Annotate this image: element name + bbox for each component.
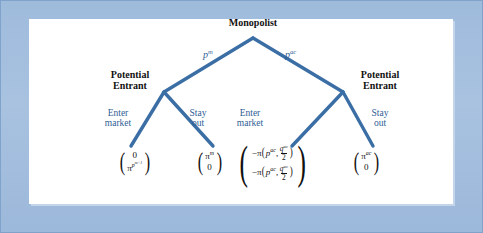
action-stay-right-line2: out (360, 118, 400, 128)
action-enter-left-line1: Enter (92, 108, 144, 118)
right-entrant-node-label: Potential Entrant (348, 70, 412, 92)
payoff-3-top-num-sup: ac (283, 144, 288, 149)
payoff-4-body: πac 0 (361, 150, 372, 174)
payoff-1-bottom: πpm+1 (127, 161, 142, 174)
payoff-3-open-paren: ( (239, 145, 247, 182)
payoff-3-top-arg-open: ( (262, 145, 265, 158)
action-stay-left-line1: Stay (178, 108, 218, 118)
payoff-1-open-paren: ( (120, 152, 125, 172)
action-stay-left-line2: out (178, 118, 218, 128)
payoff-3-bottom-fraction: qac2 (279, 165, 289, 181)
payoff-3-bottom-arg-close: ) (290, 164, 293, 177)
payoff-2-sup: m (210, 150, 214, 156)
payoff-1-sup-sup: m+1 (135, 161, 142, 165)
action-enter-right-line2: market (224, 118, 276, 128)
payoff-3-bottom-num-sup: ac (283, 164, 288, 169)
branch-right-sup: ac (290, 48, 296, 55)
branch-label-left: pm (203, 48, 213, 61)
payoff-vector-enter-right: ( −π(pac,qac2) −π(pac,qac2) ) (236, 144, 310, 183)
payoff-1-sup: pm+1 (132, 162, 142, 168)
payoff-4-top: πac (361, 150, 371, 162)
payoff-3-bottom-num: qac (279, 165, 289, 173)
action-stay-out-right: Stay out (360, 108, 400, 129)
payoff-3-top-fraction: qac2 (279, 145, 289, 161)
payoff-vector-enter-left: ( 0 πpm+1 ) (118, 150, 151, 174)
left-entrant-node-label: Potential Entrant (98, 70, 162, 92)
payoff-2-bottom: 0 (207, 162, 212, 173)
branch-label-right: pac (285, 48, 296, 61)
payoff-3-top: −π(pac,qac2) (252, 144, 294, 163)
payoff-3-bottom-arg-open: ( (262, 164, 265, 177)
payoff-3-top-arg-close: ) (290, 145, 293, 158)
payoff-1-close-paren: ) (144, 152, 149, 172)
payoff-3-bottom-den: 2 (281, 173, 287, 181)
payoff-1-body: 0 πpm+1 (127, 150, 143, 174)
payoff-vector-stay-left: ( πm 0 ) (196, 150, 223, 174)
payoff-3-bottom: −π(pac,qac2) (252, 163, 294, 182)
root-node-label: Monopolist (213, 18, 293, 29)
payoff-2-vector: ( πm 0 ) (196, 150, 223, 174)
payoff-1-top: 0 (132, 150, 137, 161)
payoff-2-close-paren: ) (216, 152, 221, 172)
payoff-3-body: −π(pac,qac2) −π(pac,qac2) (251, 144, 294, 183)
payoff-2-top: πm (205, 150, 214, 162)
action-enter-right-line1: Enter (224, 108, 276, 118)
payoff-vector-stay-right: ( πac 0 ) (352, 150, 381, 174)
action-enter-left-line2: market (92, 118, 144, 128)
payoff-3-top-num: qac (279, 145, 289, 153)
branch-left-sup: m (208, 48, 213, 55)
left-entrant-line2: Entrant (98, 81, 162, 92)
payoff-4-sup: ac (366, 150, 372, 156)
payoff-3-vector: ( −π(pac,qac2) −π(pac,qac2) ) (236, 144, 310, 183)
payoff-3-close-paren: ) (298, 145, 306, 182)
payoff-2-body: πm 0 (205, 150, 215, 174)
payoff-1-vector: ( 0 πpm+1 ) (118, 150, 151, 174)
payoff-4-open-paren: ( (354, 152, 359, 172)
payoff-4-close-paren: ) (373, 152, 378, 172)
payoff-4-vector: ( πac 0 ) (352, 150, 381, 174)
right-entrant-line2: Entrant (348, 81, 412, 92)
action-stay-out-left: Stay out (178, 108, 218, 129)
action-enter-market-left: Enter market (92, 108, 144, 129)
action-enter-market-right: Enter market (224, 108, 276, 129)
action-stay-right-line1: Stay (360, 108, 400, 118)
payoff-4-bottom: 0 (364, 162, 369, 173)
figure-root: Monopolist pm pac Potential Entrant Pote… (0, 0, 483, 233)
payoff-2-open-paren: ( (198, 152, 203, 172)
payoff-3-top-den: 2 (281, 153, 287, 161)
